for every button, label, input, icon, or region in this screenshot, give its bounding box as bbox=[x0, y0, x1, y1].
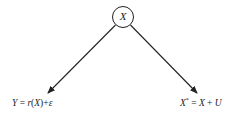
eq-xstar-plus: + bbox=[207, 98, 212, 108]
equation-xstar: X* = X + U bbox=[180, 98, 222, 108]
node-x-label: X bbox=[117, 11, 129, 22]
edge-x-to-xstar-arrow bbox=[131, 25, 198, 93]
edge-x-to-y-arrow bbox=[48, 25, 116, 93]
eq-xstar-equals: = bbox=[191, 98, 196, 108]
eq-y-equals: = bbox=[20, 98, 25, 108]
eq-xstar-noise: U bbox=[215, 98, 222, 108]
eq-y-noise: ε bbox=[49, 98, 53, 108]
eq-xstar-var: X bbox=[199, 98, 205, 108]
equation-y: Y = r(X)+ε bbox=[12, 98, 52, 108]
eq-y-lhs: Y bbox=[12, 98, 17, 108]
eq-xstar-sup: * bbox=[186, 97, 189, 103]
